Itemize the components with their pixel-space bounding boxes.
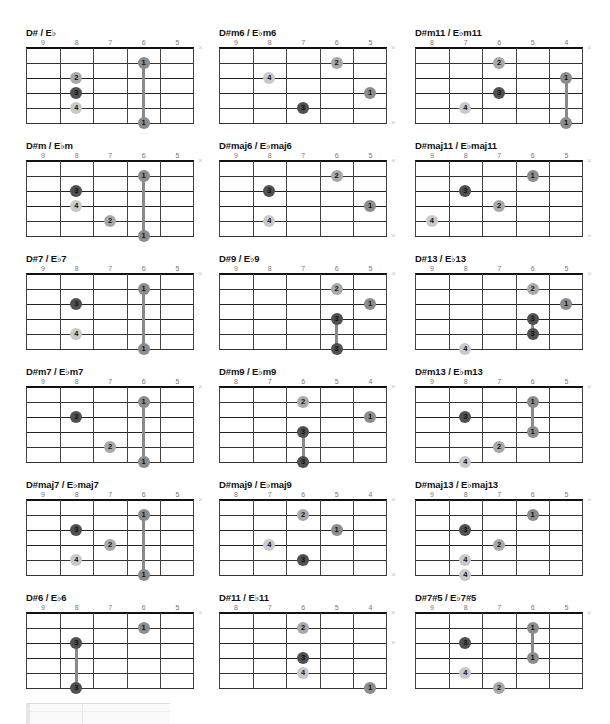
- chord-diagram: D#maj13 / E♭maj1398765×13244: [415, 479, 605, 591]
- mute-x-icon: ×: [391, 270, 396, 278]
- fret-line: [60, 613, 61, 688]
- fret-line: [93, 48, 94, 123]
- fret-line: [253, 387, 254, 462]
- partial-table-fragment: [26, 703, 170, 724]
- chord-title: D#maj6 / E♭maj6: [219, 140, 292, 151]
- fretboard-grid: ×1341: [26, 274, 194, 349]
- fretboard-grid: ×12341: [26, 48, 194, 123]
- string-line: [415, 575, 583, 576]
- string-line: [415, 191, 583, 192]
- string-line: [26, 499, 194, 501]
- fret-line: [582, 500, 583, 575]
- fret-number: 8: [219, 604, 253, 611]
- string-line: [26, 78, 194, 79]
- finger-dot: 1: [138, 230, 150, 242]
- fretboard-grid: ××2341: [219, 613, 387, 688]
- string-line: [219, 78, 387, 79]
- string-line: [219, 612, 387, 614]
- fret-number: 9: [26, 378, 60, 385]
- fret-number: 9: [219, 152, 253, 159]
- fret-number: 6: [127, 152, 161, 159]
- string-line: [219, 160, 387, 162]
- string-line: [26, 417, 194, 418]
- fret-number: 9: [415, 604, 449, 611]
- string-line: [415, 612, 583, 614]
- finger-dot: 1: [138, 57, 150, 69]
- fret-line: [253, 500, 254, 575]
- fret-number: 5: [549, 378, 583, 385]
- finger-dot: 2: [493, 539, 505, 551]
- fret-number: 8: [449, 491, 483, 498]
- fret-number: 5: [160, 39, 194, 46]
- string-line: [415, 560, 583, 561]
- finger-dot: 2: [297, 396, 309, 408]
- string-line: [415, 334, 583, 335]
- chord-diagram: D#m6 / E♭m698765××2413: [219, 27, 409, 139]
- string-line: [26, 176, 194, 177]
- chord-diagram: D#11 / E♭1187654××2341: [219, 592, 409, 704]
- fret-line: [193, 274, 194, 349]
- mute-x-icon: ×: [587, 232, 592, 240]
- barre-connector: [142, 515, 145, 575]
- string-line: [219, 530, 387, 531]
- finger-dot: 3: [297, 426, 309, 438]
- fret-number: 5: [353, 265, 387, 272]
- chord-title: D#m11 / E♭m11: [415, 27, 482, 38]
- fret-line: [160, 48, 161, 123]
- fret-number: 7: [482, 491, 516, 498]
- finger-dot: 3: [459, 411, 471, 423]
- fretboard-grid: ×13241: [26, 500, 194, 575]
- fret-number: 4: [353, 491, 387, 498]
- fret-line: [582, 613, 583, 688]
- fret-line: [549, 274, 550, 349]
- fret-line: [93, 613, 94, 688]
- string-line: [26, 334, 194, 335]
- fretboard-grid: ××2413: [219, 48, 387, 123]
- string-line: [26, 63, 194, 64]
- string-line: [26, 386, 194, 388]
- finger-dot: 3: [70, 637, 82, 649]
- table-divider: [82, 704, 83, 724]
- fret-number: 5: [160, 604, 194, 611]
- fret-line: [127, 387, 128, 462]
- string-line: [415, 530, 583, 531]
- finger-dot: 2: [297, 509, 309, 521]
- fret-line: [193, 161, 194, 236]
- mute-x-icon: ×: [198, 496, 203, 504]
- fret-line: [516, 613, 517, 688]
- fret-number: 9: [219, 265, 253, 272]
- fret-line: [60, 161, 61, 236]
- mute-x-icon: ×: [587, 157, 592, 165]
- mute-x-icon: ×: [198, 44, 203, 52]
- fret-number: 5: [320, 604, 354, 611]
- mute-x-icon: ×: [198, 609, 203, 617]
- fret-line: [516, 48, 517, 123]
- fret-number: 6: [482, 39, 516, 46]
- string-line: [219, 63, 387, 64]
- fretboard-grid: ×1321: [26, 387, 194, 462]
- string-line: [415, 221, 583, 222]
- fret-line: [415, 48, 416, 123]
- fret-line: [26, 613, 27, 688]
- table-row-line: [30, 711, 170, 712]
- string-line: [219, 417, 387, 418]
- fret-line: [582, 274, 583, 349]
- finger-dot: 3: [70, 411, 82, 423]
- chord-title: D#m7 / E♭m7: [26, 366, 83, 377]
- chord-title: D#13 / E♭13: [415, 253, 466, 264]
- fret-line: [482, 500, 483, 575]
- fretboard-grid: ×2133: [219, 387, 387, 462]
- finger-dot: 1: [560, 72, 572, 84]
- string-line: [219, 47, 387, 49]
- fret-number: 8: [219, 378, 253, 385]
- fret-number: 6: [286, 604, 320, 611]
- fret-number: 4: [353, 378, 387, 385]
- mute-x-icon: ×: [391, 609, 396, 617]
- fret-number: 7: [482, 152, 516, 159]
- string-line: [26, 273, 194, 275]
- fret-number: 5: [320, 378, 354, 385]
- string-line: [26, 289, 194, 290]
- fret-line: [160, 274, 161, 349]
- fret-line: [549, 613, 550, 688]
- fret-number: 6: [127, 39, 161, 46]
